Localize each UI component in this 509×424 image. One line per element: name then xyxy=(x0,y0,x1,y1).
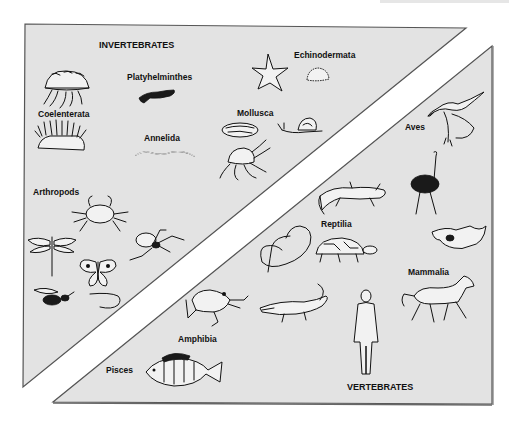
label-aves: Aves xyxy=(405,122,425,132)
invertebrates-title: INVERTEBRATES xyxy=(99,40,174,50)
mussel-icon xyxy=(222,123,258,137)
label-reptilia: Reptilia xyxy=(321,219,352,229)
classification-diagram: INVERTEBRATES Platyhelminthes Coelentera… xyxy=(0,0,509,424)
label-amphibia: Amphibia xyxy=(178,334,217,344)
vertebrates-title: VERTEBRATES xyxy=(347,382,413,392)
label-echinodermata: Echinodermata xyxy=(294,50,356,60)
label-coelenterata: Coelenterata xyxy=(38,109,90,119)
label-annelida: Annelida xyxy=(144,133,180,143)
label-pisces: Pisces xyxy=(106,365,133,375)
label-platyhelminthes: Platyhelminthes xyxy=(127,72,192,82)
label-mollusca: Mollusca xyxy=(237,108,274,118)
label-arthropods: Arthropods xyxy=(33,187,80,197)
label-mammalia: Mammalia xyxy=(408,267,449,277)
